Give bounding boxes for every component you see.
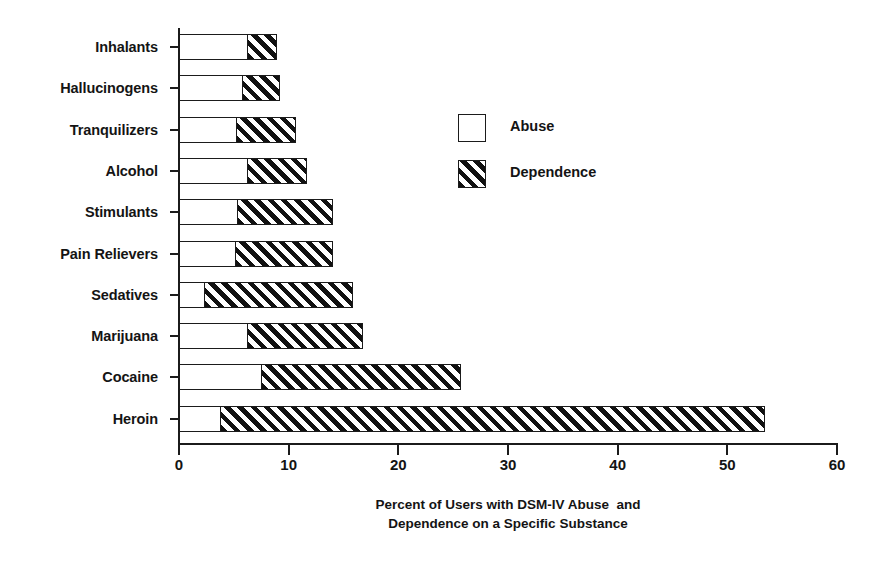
- y-axis-label: Inhalants: [0, 34, 158, 60]
- legend-swatch-dependence: [458, 160, 486, 188]
- x-axis-tick-label: 0: [149, 456, 209, 473]
- bar-segment-dependence: [237, 199, 333, 225]
- bar-segment-abuse: [179, 282, 205, 308]
- x-axis-title: Percent of Users with DSM-IV Abuse and D…: [179, 495, 837, 533]
- x-axis-tick: [288, 445, 290, 455]
- x-axis-tick-label: 30: [478, 456, 538, 473]
- legend-swatch-abuse: [458, 114, 486, 142]
- y-axis-label: Alcohol: [0, 158, 158, 184]
- bar-segment-dependence: [220, 406, 764, 432]
- x-axis-title-line-1: Percent of Users with DSM-IV Abuse and: [179, 495, 837, 514]
- bar-segment-dependence: [236, 117, 297, 143]
- y-axis-tick: [170, 129, 179, 131]
- bar-segment-dependence: [247, 323, 364, 349]
- y-axis-tick: [170, 170, 179, 172]
- bar-segment-abuse: [179, 158, 248, 184]
- bar-segment-abuse: [179, 364, 262, 390]
- bar-segment-dependence: [247, 158, 308, 184]
- x-axis-tick-label: 40: [588, 456, 648, 473]
- x-axis-tick: [836, 445, 838, 455]
- y-axis-tick: [170, 376, 179, 378]
- bar-segment-dependence: [204, 282, 354, 308]
- y-axis-tick: [170, 335, 179, 337]
- bar-segment-abuse: [179, 75, 244, 101]
- y-axis-label: Sedatives: [0, 282, 158, 308]
- bar-segment-dependence: [247, 34, 277, 60]
- bar-segment-abuse: [179, 323, 248, 349]
- y-axis-label: Tranquilizers: [0, 117, 158, 143]
- x-axis-tick: [726, 445, 728, 455]
- y-axis-label: Heroin: [0, 406, 158, 432]
- bar-segment-abuse: [179, 34, 248, 60]
- bar-segment-abuse: [179, 199, 238, 225]
- legend-label-dependence: Dependence: [510, 164, 596, 180]
- x-axis-tick: [617, 445, 619, 455]
- y-axis-tick: [170, 294, 179, 296]
- x-axis-tick: [397, 445, 399, 455]
- y-axis-label: Pain Relievers: [0, 241, 158, 267]
- x-axis-tick: [507, 445, 509, 455]
- bar-segment-abuse: [179, 406, 222, 432]
- y-axis-label: Marijuana: [0, 323, 158, 349]
- x-axis-tick-label: 10: [259, 456, 319, 473]
- bar-segment-dependence: [242, 75, 280, 101]
- x-axis-tick-label: 50: [697, 456, 757, 473]
- y-axis-tick: [170, 211, 179, 213]
- legend-label-abuse: Abuse: [510, 118, 554, 134]
- y-axis-tick: [170, 418, 179, 420]
- y-axis-label: Hallucinogens: [0, 75, 158, 101]
- x-axis-tick-label: 20: [368, 456, 428, 473]
- bar-chart: InhalantsHallucinogensTranquilizersAlcoh…: [0, 0, 886, 563]
- bar-segment-dependence: [261, 364, 461, 390]
- y-axis-tick: [170, 253, 179, 255]
- y-axis-label: Cocaine: [0, 364, 158, 390]
- y-axis-tick: [170, 87, 179, 89]
- x-axis-title-line-2: Dependence on a Specific Substance: [179, 514, 837, 533]
- y-axis-label: Stimulants: [0, 199, 158, 225]
- bar-segment-dependence: [235, 241, 333, 267]
- bar-segment-abuse: [179, 117, 237, 143]
- y-axis-tick: [170, 46, 179, 48]
- x-axis-tick: [178, 445, 180, 455]
- x-axis-tick-label: 60: [807, 456, 867, 473]
- bar-segment-abuse: [179, 241, 236, 267]
